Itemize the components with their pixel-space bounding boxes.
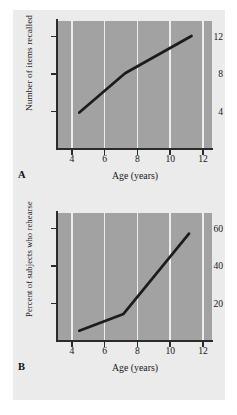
y-tick-label-12: 12: [193, 32, 223, 42]
panel-letter-b: B: [18, 361, 25, 372]
x-tick-label-8: 8: [126, 346, 148, 356]
y-axis-title-a: Number of items recalled: [24, 3, 34, 123]
x-axis-title-b: Age (years): [58, 362, 212, 373]
x-tick-label-10: 10: [159, 154, 181, 164]
y-tick-mark-60: [51, 228, 57, 230]
y-axis-line-a: [56, 19, 58, 150]
x-axis-line-b: [56, 340, 213, 342]
chart-panel-b: Percent of subjects who rehearse 20 40 6…: [13, 204, 225, 390]
y-tick-label-20: 20: [193, 299, 223, 309]
y-tick-mark-20: [51, 303, 57, 305]
plot-area-a: [58, 21, 212, 148]
x-tick-label-4: 4: [61, 346, 83, 356]
y-tick-mark-12: [51, 36, 57, 38]
x-axis-line-a: [56, 148, 213, 150]
x-tick-label-4: 4: [61, 154, 83, 164]
panel-letter-a: A: [18, 169, 26, 180]
x-tick-label-8: 8: [126, 154, 148, 164]
x-tick-label-6: 6: [94, 154, 116, 164]
x-tick-label-10: 10: [159, 346, 181, 356]
y-tick-mark-8: [51, 73, 57, 75]
y-axis-line-b: [56, 211, 58, 342]
y-tick-mark-4: [51, 111, 57, 113]
x-axis-title-a: Age (years): [58, 170, 212, 181]
figure-panel: Number of items recalled 4 8 12 4 6 8: [13, 10, 225, 400]
plot-area-b: [58, 213, 212, 340]
x-tick-label-12: 12: [192, 346, 214, 356]
y-tick-label-8: 8: [193, 69, 223, 79]
y-tick-mark-40: [51, 265, 57, 267]
x-tick-label-12: 12: [192, 154, 214, 164]
data-line-a: [58, 21, 212, 148]
x-tick-label-6: 6: [94, 346, 116, 356]
y-tick-label-40: 40: [193, 261, 223, 271]
y-tick-label-60: 60: [193, 224, 223, 234]
y-axis-title-b: Percent of subjects who rehearse: [24, 191, 34, 327]
chart-panel-a: Number of items recalled 4 8 12 4 6 8: [13, 12, 225, 198]
y-tick-label-4: 4: [193, 107, 223, 117]
data-line-b: [58, 213, 212, 340]
